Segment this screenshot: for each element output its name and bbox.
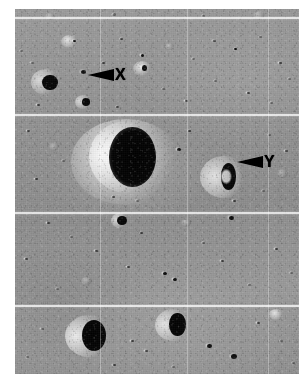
left-arrow-icon — [88, 69, 114, 81]
left-arrow-icon — [237, 156, 263, 168]
lunar-photograph-figure: X Y — [0, 0, 306, 382]
scanline-texture — [15, 9, 299, 374]
framelet-seam-horizontal — [15, 17, 299, 19]
annotation-x-label: X — [115, 67, 126, 83]
framelet-seam-vertical — [187, 9, 188, 374]
framelet-seam-horizontal — [15, 212, 299, 214]
annotation-y: Y — [237, 154, 275, 170]
framelet-seam-horizontal — [15, 114, 299, 116]
annotation-x: X — [88, 67, 126, 83]
annotation-y-label: Y — [264, 154, 275, 170]
framelet-seam-horizontal — [15, 305, 299, 307]
photograph-plate: X Y — [15, 9, 299, 374]
framelet-seam-vertical — [268, 9, 269, 374]
framelet-seam-vertical — [100, 9, 101, 374]
